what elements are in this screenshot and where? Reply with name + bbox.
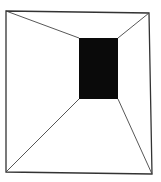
edge-bottom-left (6, 99, 79, 172)
edge-top-left (6, 11, 79, 38)
back-wall-black-rectangle (79, 38, 118, 99)
edge-bottom-right (118, 99, 152, 174)
perspective-room-figure (0, 0, 161, 182)
edge-top-right (118, 13, 149, 38)
